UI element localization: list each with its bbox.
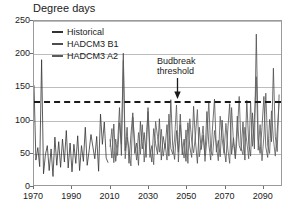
x-tick-label: 1990	[61, 191, 81, 201]
legend-color-swatch	[52, 43, 63, 45]
legend-item-label: Historical	[67, 27, 104, 37]
legend-item[interactable]: HADCM3 B1	[52, 38, 119, 49]
x-axis: 1970199020102030205020702090	[33, 189, 282, 203]
legend-item[interactable]: Historical	[52, 26, 119, 37]
legend-item-label: HADCM3 B1	[67, 39, 119, 49]
y-axis: 050100150200250	[0, 20, 30, 186]
page-title: Degree days	[33, 2, 95, 15]
x-tick-label: 2030	[138, 191, 158, 201]
x-tick-mark	[71, 186, 72, 189]
y-tick-label: 250	[2, 16, 30, 25]
x-tick-label: 2090	[253, 191, 273, 201]
x-tick-mark	[186, 186, 187, 189]
annotation-line-2: threshold	[157, 66, 196, 76]
x-tick-mark	[33, 186, 34, 189]
x-tick-mark	[225, 186, 226, 189]
legend-color-swatch	[52, 31, 63, 33]
legend-color-swatch	[52, 55, 63, 57]
annotation-line-1: Budbreak	[157, 56, 196, 66]
y-tick-label: 200	[2, 49, 30, 58]
series-line	[110, 60, 279, 166]
x-tick-label: 2070	[215, 191, 235, 201]
x-tick-label: 2010	[100, 191, 120, 201]
legend-item[interactable]: HADCM3 A2	[52, 50, 119, 61]
series-line	[34, 60, 108, 177]
x-tick-mark	[263, 186, 264, 189]
legend: HistoricalHADCM3 B1HADCM3 A2	[52, 26, 119, 61]
x-tick-label: 2050	[176, 191, 196, 201]
chart-figure: Degree days 050100150200250 197019902010…	[0, 0, 293, 215]
budbreak-threshold-annotation: Budbreak threshold	[157, 56, 196, 76]
x-tick-mark	[110, 186, 111, 189]
y-tick-label: 0	[2, 182, 30, 191]
down-arrow-icon	[173, 78, 182, 100]
x-tick-label: 1970	[23, 191, 43, 201]
y-tick-label: 50	[2, 149, 30, 158]
y-tick-label: 100	[2, 116, 30, 125]
y-tick-label: 150	[2, 82, 30, 91]
budbreak-threshold-line	[34, 101, 281, 103]
x-tick-mark	[148, 186, 149, 189]
legend-item-label: HADCM3 A2	[67, 51, 118, 61]
